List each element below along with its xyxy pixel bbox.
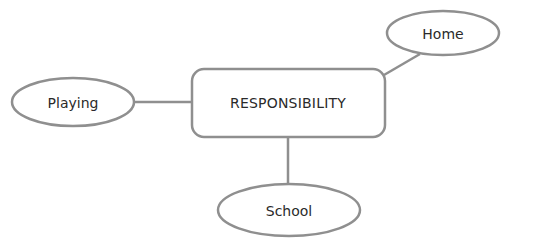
node-playing-label: Playing [48,95,99,111]
center-node-label: RESPONSIBILITY [230,95,346,111]
edge-home [384,54,420,75]
node-school-label: School [266,203,312,219]
node-home-label: Home [422,26,463,42]
